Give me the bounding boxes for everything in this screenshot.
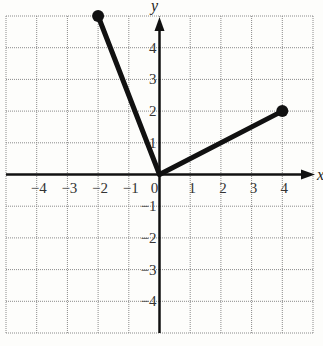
y-tick-label: 4 bbox=[149, 40, 157, 56]
x-tick-label: 4 bbox=[281, 180, 289, 196]
x-axis-label: x bbox=[316, 166, 323, 183]
x-tick-label: 2 bbox=[219, 180, 227, 196]
y-tick-label: 3 bbox=[149, 71, 157, 87]
y-tick-label: −2 bbox=[141, 230, 157, 246]
coordinate-plane: −4−3−2−1012344321−1−2−3−4 x y bbox=[0, 0, 323, 346]
y-axis-arrow-icon bbox=[155, 17, 165, 31]
endpoint-dot bbox=[276, 105, 288, 117]
endpoint-dot bbox=[92, 10, 104, 22]
x-tick-label: −3 bbox=[61, 180, 77, 196]
x-tick-label: 0 bbox=[151, 180, 159, 196]
y-tick-label: −1 bbox=[141, 198, 157, 214]
x-tick-label: 3 bbox=[250, 180, 258, 196]
x-tick-label: 1 bbox=[188, 180, 196, 196]
x-tick-label: −4 bbox=[31, 180, 47, 196]
y-tick-label: −4 bbox=[141, 293, 157, 309]
y-axis-label: y bbox=[149, 0, 159, 15]
x-tick-label: −2 bbox=[92, 180, 108, 196]
x-tick-label: −1 bbox=[123, 180, 139, 196]
y-tick-label: 2 bbox=[149, 103, 157, 119]
y-tick-label: −3 bbox=[141, 262, 157, 278]
